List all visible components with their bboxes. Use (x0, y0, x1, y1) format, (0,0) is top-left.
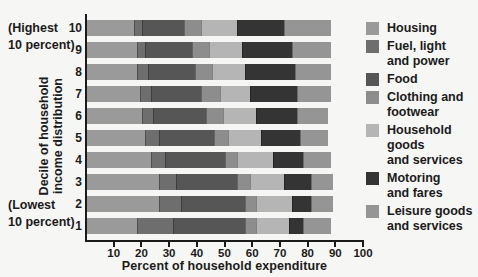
bar-segment (87, 174, 159, 190)
bar-segment (159, 174, 176, 190)
bar-segment (289, 218, 303, 234)
legend-label-clothing-and-footwear: Clothing andfootwear (387, 90, 463, 120)
legend-swatch-food (366, 73, 379, 86)
bar-segment (284, 174, 312, 190)
legend-swatch-household-goods-and-services (366, 124, 379, 137)
bar-segment (195, 64, 212, 80)
bar-segment (292, 196, 311, 212)
decile-tick-label: 1 (56, 218, 82, 234)
legend: HousingFuel, lightand powerFoodClothing … (366, 21, 478, 234)
bar-row-decile-7 (87, 86, 331, 102)
bar-segment (220, 86, 250, 102)
legend-swatch-clothing-and-footwear (366, 91, 379, 104)
decile-tick-label: 3 (56, 174, 82, 190)
bar-segment (237, 20, 284, 36)
legend-item-food: Food (366, 72, 478, 87)
bar-row-decile-2 (87, 196, 333, 212)
bar-segment (284, 20, 331, 36)
bar-segment (87, 108, 142, 124)
bar-segment (159, 196, 181, 212)
bar-segment (209, 42, 242, 58)
bar-segment (137, 42, 145, 58)
legend-label-housing: Housing (387, 21, 437, 36)
decile-tick-label: 9 (56, 42, 82, 58)
bar-segment (201, 20, 237, 36)
legend-item-household-goods-and-services: Household goodsand services (366, 123, 478, 168)
bar-row-decile-4 (87, 152, 331, 168)
bar-segment (140, 86, 151, 102)
legend-item-motoring-and-fares: Motoringand fares (366, 171, 478, 201)
bar-segment (181, 196, 245, 212)
bar-segment (237, 152, 273, 168)
bar-segment (87, 218, 137, 234)
bar-segment (87, 20, 134, 36)
bar-row-decile-10 (87, 20, 331, 36)
x-axis-title: Percent of household expenditure (86, 259, 363, 273)
decile-tick-label: 5 (56, 130, 82, 146)
legend-label-food: Food (387, 72, 418, 87)
bar-row-decile-3 (87, 174, 333, 190)
bar-segment (228, 130, 261, 146)
y-axis-title-line1: Decile of household (38, 77, 52, 196)
legend-swatch-leisure-goods-and-services (366, 205, 379, 218)
bar-segment (142, 20, 184, 36)
bar-segment (165, 152, 226, 168)
bar-segment (159, 130, 214, 146)
legend-label-household-goods-and-services: Household goodsand services (387, 123, 478, 168)
bar-row-decile-5 (87, 130, 328, 146)
x-axis-tick-label: 100 (346, 247, 380, 259)
bar-segment (311, 174, 333, 190)
bar-segment (87, 86, 140, 102)
bar-segment (87, 196, 159, 212)
bar-segment (250, 86, 297, 102)
legend-label-motoring-and-fares: Motoringand fares (387, 171, 443, 201)
bar-segment (256, 108, 298, 124)
bar-segment (223, 108, 256, 124)
bar-segment (134, 20, 142, 36)
legend-item-fuel-light-and-power: Fuel, lightand power (366, 39, 478, 69)
bar-segment (212, 64, 245, 80)
bar-segment (261, 130, 300, 146)
bar-segment (245, 196, 256, 212)
bar-row-decile-9 (87, 42, 331, 58)
bar-segment (151, 152, 165, 168)
bar-segment (148, 64, 195, 80)
stacked-bar-chart-figure: (Highest 10 percent) Decile of household… (0, 0, 478, 277)
bar-segment (311, 196, 333, 212)
bar-segment (145, 130, 159, 146)
bar-segment (245, 64, 295, 80)
bar-segment (153, 108, 206, 124)
bar-segment (137, 64, 148, 80)
bar-segment (292, 42, 331, 58)
bar-segment (237, 174, 251, 190)
bar-row-decile-6 (87, 108, 328, 124)
bar-segment (225, 152, 236, 168)
bar-segment (297, 108, 327, 124)
bar-segment (206, 108, 223, 124)
legend-swatch-fuel-light-and-power (366, 40, 379, 53)
plot-area (87, 19, 364, 241)
legend-label-leisure-goods-and-services: Leisure goodsand services (387, 204, 472, 234)
bar-segment (87, 42, 137, 58)
decile-tick-label: 4 (56, 152, 82, 168)
legend-item-clothing-and-footwear: Clothing andfootwear (366, 90, 478, 120)
bar-segment (151, 86, 201, 102)
decile-tick-label: 10 (56, 20, 82, 36)
bar-segment (242, 42, 292, 58)
bar-segment (87, 64, 137, 80)
bar-segment (87, 152, 151, 168)
decile-tick-label: 6 (56, 108, 82, 124)
legend-swatch-housing (366, 22, 379, 35)
bar-row-decile-8 (87, 64, 331, 80)
bar-segment (137, 218, 173, 234)
bar-segment (273, 152, 303, 168)
bar-segment (201, 86, 220, 102)
bar-segment (303, 218, 331, 234)
bar-segment (142, 108, 153, 124)
legend-label-fuel-light-and-power: Fuel, lightand power (387, 39, 450, 69)
bar-segment (184, 20, 201, 36)
bar-segment (176, 174, 237, 190)
bar-segment (256, 218, 289, 234)
bar-segment (245, 218, 256, 234)
bar-segment (303, 152, 331, 168)
